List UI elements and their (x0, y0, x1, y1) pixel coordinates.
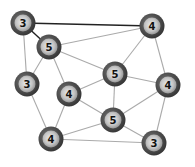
node-label: 4 (66, 89, 73, 100)
edge-A-B (23, 23, 152, 26)
node-E: 5 (103, 62, 128, 87)
node-H: 5 (101, 108, 126, 133)
node-C: 5 (37, 35, 62, 60)
node-label: 3 (20, 18, 27, 29)
node-G: 4 (57, 82, 82, 107)
node-F: 4 (156, 73, 181, 98)
node-label: 4 (149, 21, 156, 32)
node-label: 4 (48, 134, 55, 145)
node-B: 4 (140, 14, 165, 39)
node-label: 3 (151, 138, 158, 149)
edge-I-J (51, 139, 154, 143)
node-I: 4 (39, 127, 64, 152)
node-label: 5 (46, 42, 53, 53)
node-label: 4 (165, 80, 172, 91)
node-label: 3 (24, 79, 31, 90)
node-A: 3 (11, 11, 36, 36)
graph-diagram: 3453544543 (0, 0, 195, 167)
node-label: 5 (112, 69, 119, 80)
node-label: 5 (110, 115, 117, 126)
edge-C-B (49, 26, 152, 47)
node-J: 3 (142, 131, 167, 156)
node-D: 3 (15, 72, 40, 97)
